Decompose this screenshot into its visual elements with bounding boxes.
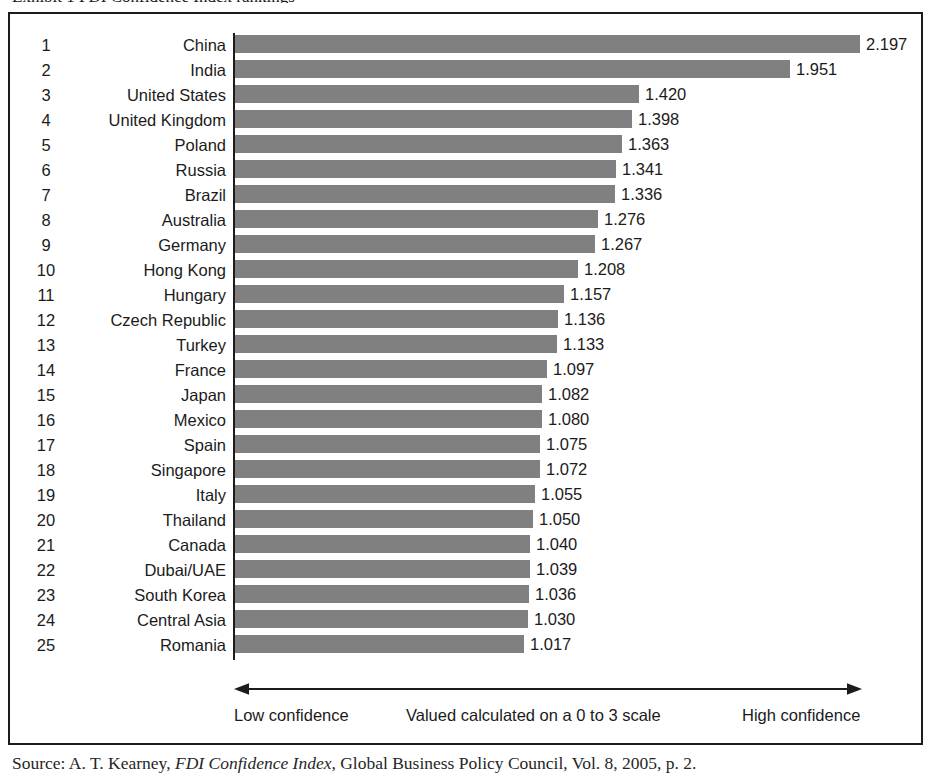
country-label: Dubai/UAE (62, 560, 226, 580)
bar-row: 9Germany1.267 (10, 233, 921, 258)
country-label: Canada (62, 535, 226, 555)
value-bar (234, 335, 557, 353)
value-label: 1.336 (621, 184, 662, 204)
value-bar (234, 110, 632, 128)
rank-number: 1 (32, 35, 60, 55)
bar-row: 21Canada1.040 (10, 533, 921, 558)
value-label: 1.136 (564, 309, 605, 329)
figure-title: Exhibit 1 FDI Confidence Index rankings (12, 0, 912, 3)
value-bar (234, 285, 564, 303)
country-label: Czech Republic (62, 310, 226, 330)
source-note: Source: A. T. Kearney, FDI Confidence In… (12, 752, 932, 774)
value-label: 1.017 (530, 634, 571, 654)
bar-row: 15Japan1.082 (10, 383, 921, 408)
value-label: 1.055 (541, 484, 582, 504)
value-label: 1.133 (563, 334, 604, 354)
value-label: 1.157 (570, 284, 611, 304)
value-label: 1.036 (535, 584, 576, 604)
value-label: 1.276 (604, 209, 645, 229)
value-label: 1.097 (553, 359, 594, 379)
value-label: 1.030 (534, 609, 575, 629)
value-bar (234, 360, 547, 378)
bar-row: 11Hungary1.157 (10, 283, 921, 308)
value-label: 1.951 (796, 59, 837, 79)
bar-row: 13Turkey1.133 (10, 333, 921, 358)
rank-number: 20 (32, 510, 60, 530)
rank-number: 8 (32, 210, 60, 230)
value-bar (234, 85, 639, 103)
rank-number: 13 (32, 335, 60, 355)
bar-row: 7Brazil1.336 (10, 183, 921, 208)
value-bar (234, 510, 533, 528)
rank-number: 6 (32, 160, 60, 180)
bar-row: 12Czech Republic1.136 (10, 308, 921, 333)
country-label: Hong Kong (62, 260, 226, 280)
value-bar (234, 435, 540, 453)
value-bar (234, 310, 558, 328)
bar-row: 17Spain1.075 (10, 433, 921, 458)
value-label: 1.072 (546, 459, 587, 479)
rank-number: 14 (32, 360, 60, 380)
bar-row: 6Russia1.341 (10, 158, 921, 183)
rank-number: 17 (32, 435, 60, 455)
country-label: Turkey (62, 335, 226, 355)
country-label: Mexico (62, 410, 226, 430)
rank-number: 23 (32, 585, 60, 605)
rank-number: 22 (32, 560, 60, 580)
value-label: 1.208 (584, 259, 625, 279)
value-bar (234, 535, 530, 553)
country-label: Poland (62, 135, 226, 155)
bar-row: 25Romania1.017 (10, 633, 921, 658)
bar-row: 1China2.197 (10, 33, 921, 58)
rank-number: 2 (32, 60, 60, 80)
value-bar (234, 635, 524, 653)
bar-row: 20Thailand1.050 (10, 508, 921, 533)
value-bar (234, 585, 529, 603)
country-label: United States (62, 85, 226, 105)
rank-number: 11 (32, 285, 60, 305)
bar-row: 10Hong Kong1.208 (10, 258, 921, 283)
bar-row: 2India1.951 (10, 58, 921, 83)
country-label: Central Asia (62, 610, 226, 630)
value-label: 1.341 (622, 159, 663, 179)
category-axis-line (233, 33, 235, 660)
right-arrowhead (847, 683, 862, 695)
value-bar (234, 410, 542, 428)
bar-row: 5Poland1.363 (10, 133, 921, 158)
rank-number: 21 (32, 535, 60, 555)
value-bar (234, 610, 528, 628)
country-label: Spain (62, 435, 226, 455)
value-label: 1.080 (548, 409, 589, 429)
country-label: Italy (62, 485, 226, 505)
bar-row: 8Australia1.276 (10, 208, 921, 233)
chart-frame: 1China2.1972India1.9513United States1.42… (8, 12, 923, 745)
value-bar (234, 485, 535, 503)
value-label: 1.398 (638, 109, 679, 129)
country-label: Brazil (62, 185, 226, 205)
value-bar (234, 560, 530, 578)
country-label: United Kingdom (62, 110, 226, 130)
value-bar (234, 260, 578, 278)
value-bar (234, 185, 615, 203)
value-bar (234, 210, 598, 228)
bar-row: 24Central Asia1.030 (10, 608, 921, 633)
country-label: Romania (62, 635, 226, 655)
value-bar (234, 60, 790, 78)
bar-row: 18Singapore1.072 (10, 458, 921, 483)
rank-number: 7 (32, 185, 60, 205)
bar-row: 19Italy1.055 (10, 483, 921, 508)
rank-number: 12 (32, 310, 60, 330)
value-label: 1.039 (536, 559, 577, 579)
rank-number: 9 (32, 235, 60, 255)
axis-label-scale-note: Valued calculated on a 0 to 3 scale (406, 704, 661, 726)
scale-caption: Low confidence Valued calculated on a 0 … (234, 704, 874, 728)
value-bar (234, 385, 542, 403)
value-label: 1.040 (536, 534, 577, 554)
country-label: Australia (62, 210, 226, 230)
bar-row: 14France1.097 (10, 358, 921, 383)
rank-number: 4 (32, 110, 60, 130)
axis-label-low-confidence: Low confidence (234, 704, 349, 726)
rank-number: 25 (32, 635, 60, 655)
value-label: 1.082 (548, 384, 589, 404)
rank-number: 5 (32, 135, 60, 155)
